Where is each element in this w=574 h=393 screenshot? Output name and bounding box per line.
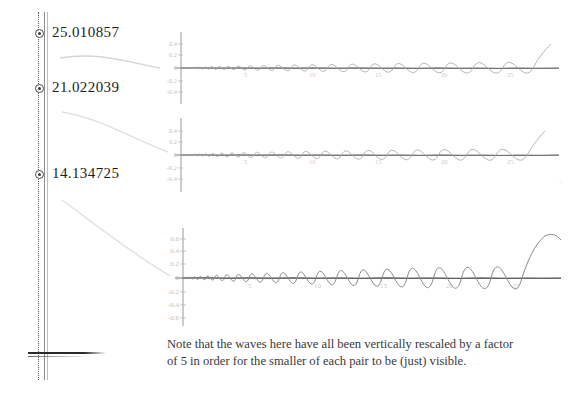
svg-text:-0.2: -0.2: [167, 77, 177, 84]
critical-line-stroke: [44, 12, 45, 380]
svg-text:0.4: 0.4: [169, 40, 178, 47]
svg-text:-0.4: -0.4: [167, 88, 178, 95]
figure-canvas: 25.010857 21.022039 14.134725 0.4 0.2 0 …: [0, 0, 574, 393]
svg-text:15: 15: [375, 71, 382, 78]
critical-line-panel: 25.010857 21.022039 14.134725: [0, 0, 165, 393]
axes-14: [175, 228, 561, 326]
svg-text:-0.4: -0.4: [167, 175, 178, 182]
figure-caption: Note that the waves here have all been v…: [167, 336, 571, 370]
svg-text:10: 10: [309, 71, 316, 78]
svg-text:5: 5: [248, 282, 252, 290]
caption-line-1: Note that the waves here have all been v…: [167, 336, 571, 353]
critical-line-stroke-secondary: [47, 12, 48, 380]
svg-text:20: 20: [441, 158, 448, 165]
zero-marker-25[interactable]: [35, 29, 44, 38]
svg-text:0.2: 0.2: [169, 138, 177, 145]
zero-label-14: 14.134725: [52, 165, 119, 182]
plot-zero-14: 0.6 0.4 0.2 0 -0.2 -0.4 -0.6 510 152025: [165, 222, 569, 332]
svg-text:25: 25: [507, 71, 514, 78]
svg-text:-0.6: -0.6: [168, 314, 180, 322]
svg-text:-0.2: -0.2: [167, 164, 177, 171]
svg-text:0: 0: [176, 274, 180, 282]
real-axis: [28, 352, 106, 354]
large-wave-14: [183, 234, 561, 289]
svg-text:25: 25: [507, 158, 514, 165]
svg-text:0: 0: [174, 64, 177, 71]
zero-label-25: 25.010857: [52, 24, 119, 41]
small-wave-21: [181, 155, 559, 156]
svg-text:0.2: 0.2: [170, 260, 179, 268]
svg-text:10: 10: [314, 282, 322, 290]
svg-text:0.4: 0.4: [170, 247, 179, 255]
svg-text:-0.4: -0.4: [168, 301, 180, 309]
svg-text:5: 5: [244, 71, 247, 78]
svg-text:0.2: 0.2: [169, 51, 177, 58]
zero-marker-21[interactable]: [35, 84, 44, 93]
svg-text:-0.2: -0.2: [168, 288, 180, 296]
svg-text:0.6: 0.6: [170, 235, 179, 243]
small-wave-14: [183, 278, 561, 279]
xticklabel-trailing-21: 5: [559, 178, 563, 186]
yticklabels-14: 0.6 0.4 0.2 0 -0.2 -0.4 -0.6: [168, 235, 180, 322]
svg-text:10: 10: [309, 158, 316, 165]
plot-zero-21: 0.4 0.2 0 -0.2 -0.4 510 152025 5: [167, 112, 567, 198]
svg-text:0: 0: [174, 151, 177, 158]
critical-line-dotted: [38, 12, 39, 380]
zero-marker-14[interactable]: [35, 170, 44, 179]
yticklabels-25: 0.4 0.2 0 -0.2 -0.4: [167, 40, 178, 95]
plot-zero-25: 0.4 0.2 0 -0.2 -0.4 510 152025: [167, 26, 567, 110]
yticklabels-21: 0.4 0.2 0 -0.2 -0.4: [167, 127, 178, 182]
svg-text:0.4: 0.4: [169, 127, 178, 134]
xticklabels-25: 510 152025: [244, 71, 514, 78]
svg-text:15: 15: [380, 282, 388, 290]
svg-text:5: 5: [244, 158, 247, 165]
zero-label-21: 21.022039: [52, 79, 119, 96]
real-axis-secondary: [28, 356, 90, 357]
xticklabels-21: 510 152025: [244, 158, 514, 165]
caption-line-2: of 5 in order for the smaller of each pa…: [167, 353, 571, 370]
